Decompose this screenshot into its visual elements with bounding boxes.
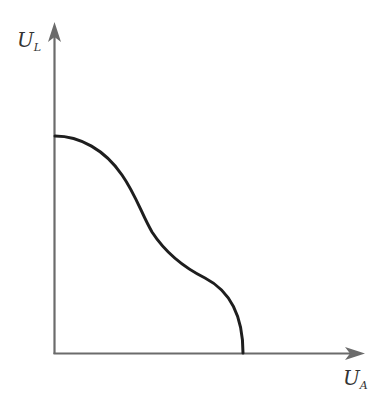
y-axis-subscript: L: [34, 41, 41, 54]
y-axis-symbol: U: [17, 28, 34, 52]
x-axis-subscript: A: [360, 379, 368, 392]
x-axis-label: UA: [343, 368, 368, 391]
y-axis-label: UL: [17, 30, 41, 53]
diagram-canvas: [0, 0, 392, 410]
utility-frontier-curve: [55, 136, 243, 353]
x-axis-symbol: U: [343, 366, 360, 390]
